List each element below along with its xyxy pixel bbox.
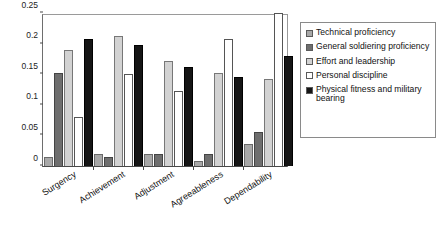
legend-swatch-icon <box>306 87 313 94</box>
legend-item[interactable]: Physical fitness and military bearing <box>306 85 431 104</box>
bar <box>154 154 163 166</box>
legend-item[interactable]: Technical proficiency <box>306 28 431 37</box>
bar <box>134 45 143 166</box>
legend-item-label: Effort and leadership <box>316 57 395 66</box>
bar <box>274 13 283 166</box>
bar <box>44 157 53 166</box>
bar <box>104 157 113 166</box>
bar <box>64 50 73 166</box>
legend-item-label: Technical proficiency <box>316 28 395 37</box>
bar <box>84 39 93 166</box>
bar <box>244 144 253 166</box>
bar <box>264 79 273 166</box>
y-axis-tick-label: 0.2 <box>26 31 43 40</box>
bar <box>74 117 83 166</box>
bar <box>144 154 153 166</box>
bar <box>254 132 263 166</box>
legend-item[interactable]: Effort and leadership <box>306 57 431 66</box>
x-axis-labels: SurgencyAchievementAdjustmentAgreeablene… <box>42 168 288 227</box>
y-axis-tick-label: 0.25 <box>21 0 43 9</box>
bar-groups <box>43 15 287 166</box>
legend-item[interactable]: Personal discipline <box>306 71 431 80</box>
x-axis-category-label: Dependability <box>223 170 274 207</box>
legend-item[interactable]: General soldiering proficiency <box>306 42 431 51</box>
bar <box>174 91 183 166</box>
bar <box>54 73 63 166</box>
bar-group <box>93 15 143 166</box>
x-axis-category-label: Agreeableness <box>169 170 225 209</box>
bar <box>164 61 173 166</box>
x-axis-category-label: Surgency <box>40 170 77 198</box>
bar <box>94 154 103 166</box>
x-axis-category-label: Adjustment <box>133 170 176 201</box>
y-axis-tick-mark <box>40 12 43 13</box>
chart-legend: Technical proficiencyGeneral soldiering … <box>300 22 436 138</box>
bar <box>184 67 193 166</box>
legend-swatch-icon <box>306 58 313 65</box>
bar-chart: 00.050.10.150.20.25 SurgencyAchievementA… <box>0 0 439 227</box>
x-axis-category-label: Achievement <box>78 170 127 205</box>
y-axis-tick-label: 0.1 <box>26 92 43 101</box>
bar <box>224 39 233 166</box>
bar-group <box>43 15 93 166</box>
bar <box>214 73 223 166</box>
legend-item-label: General soldiering proficiency <box>316 42 429 51</box>
bar-group <box>193 15 243 166</box>
legend-swatch-icon <box>306 44 313 51</box>
y-axis-tick-label: 0.15 <box>21 61 43 70</box>
plot-area: 00.050.10.150.20.25 <box>42 14 288 167</box>
legend-item-label: Personal discipline <box>316 71 388 80</box>
bar <box>284 56 293 166</box>
bar-group <box>243 15 293 166</box>
bar <box>194 161 203 167</box>
legend-swatch-icon <box>306 30 313 37</box>
bar <box>204 154 213 166</box>
legend-item-label: Physical fitness and military bearing <box>316 85 431 104</box>
y-axis-tick-label: 0 <box>33 153 43 162</box>
bar <box>114 36 123 166</box>
y-axis-tick-label: 0.05 <box>21 123 43 132</box>
bar <box>234 77 243 166</box>
bar <box>124 74 133 166</box>
legend-swatch-icon <box>306 72 313 79</box>
bar-group <box>143 15 193 166</box>
